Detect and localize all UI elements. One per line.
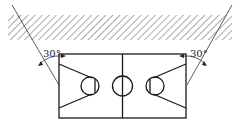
right-key (146, 64, 186, 108)
left-angle-label: 30° (43, 48, 61, 59)
right-angle-label: 30° (190, 48, 208, 59)
left-key (59, 64, 99, 108)
court (59, 54, 186, 118)
court-diagram: 30° 30° (0, 0, 237, 127)
hatched-boundary-band (8, 15, 232, 40)
